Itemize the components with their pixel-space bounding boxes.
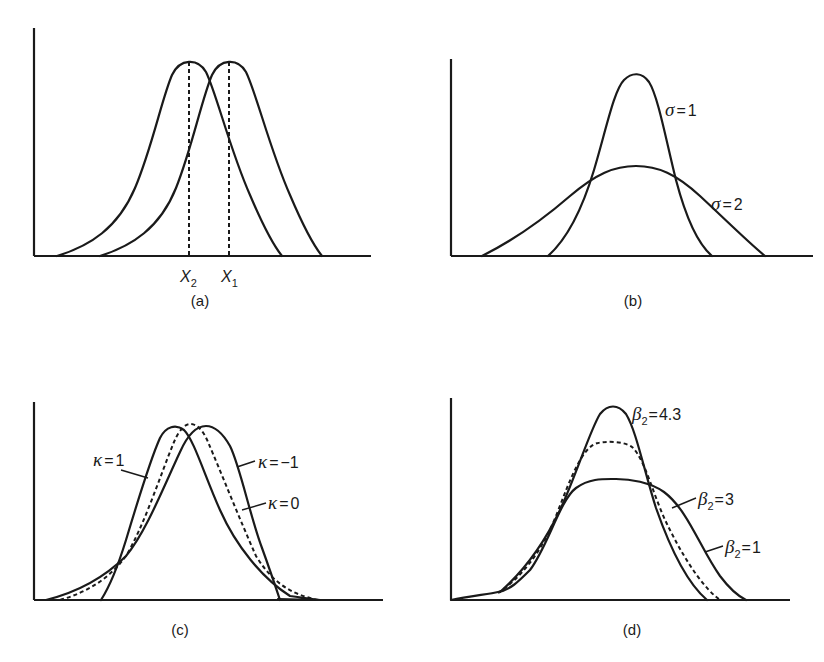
- panel-a-curve-x2: [57, 62, 282, 256]
- distribution-figure: X2 X1 (a) σ=1 σ=2 (b): [0, 0, 824, 662]
- panel-a-caption: (a): [191, 292, 209, 309]
- panel-c-leader-kappa0: [242, 503, 266, 510]
- panel-c-label-kappa-neg1: κ=−1: [258, 451, 299, 472]
- panel-c-curve-kappa1: [101, 427, 320, 600]
- panel-a-label-x1: X1: [220, 268, 238, 289]
- panel-d-leader-beta2-1: [705, 546, 723, 552]
- panel-c-curve-kappa-neg1: [46, 426, 280, 600]
- panel-d-caption: (d): [623, 621, 641, 638]
- panel-c-caption: (c): [171, 621, 189, 638]
- panel-b-label-sigma2: σ=2: [711, 193, 743, 214]
- panel-d: β2=4.3 β2=3 β2=1 (d): [451, 398, 790, 638]
- panel-b-caption: (b): [624, 292, 642, 309]
- panel-d-label-beta2-3: β2=3: [697, 488, 734, 512]
- panel-c-leader-kappa-neg1: [237, 461, 255, 467]
- panel-c: κ=1 κ=−1 κ=0 (c): [34, 402, 383, 638]
- panel-c-leader-kappa1: [121, 470, 148, 478]
- panel-a: X2 X1 (a): [34, 28, 371, 309]
- panel-c-label-kappa0: κ=0: [268, 492, 299, 513]
- panel-d-label-beta2-1: β2=1: [724, 536, 761, 560]
- panel-b-label-sigma1: σ=1: [665, 99, 697, 120]
- panel-a-label-x2: X2: [179, 268, 197, 289]
- panel-d-label-beta2-4-3: β2=4.3: [631, 403, 681, 427]
- panel-a-curve-x1: [100, 62, 322, 256]
- panel-c-label-kappa1: κ=1: [93, 449, 124, 470]
- panel-b: σ=1 σ=2 (b): [451, 59, 813, 309]
